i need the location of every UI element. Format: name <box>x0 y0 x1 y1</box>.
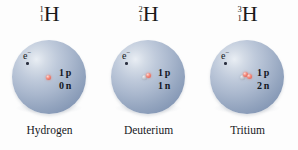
isotope-name-caption: Hydrogen <box>0 125 99 137</box>
element-symbol: H <box>143 3 159 25</box>
proton-particle-icon <box>46 75 51 80</box>
neutron-count-row: 1n <box>158 80 170 93</box>
neutron-unit: n <box>165 80 171 91</box>
proton-unit: p <box>264 67 270 78</box>
electron-charge-sign: − <box>126 49 130 57</box>
proton-count-row: 1p <box>59 67 71 80</box>
isotope-diagram-tritium: 3 1 H e− 1p 2n Tritium <box>198 0 297 150</box>
nuclide-symbol: 2 1 H <box>99 3 198 25</box>
proton-particle-icon <box>146 73 151 78</box>
neutron-unit: n <box>264 80 270 91</box>
element-symbol: H <box>242 3 258 25</box>
particle-counts: 1p 2n <box>257 67 269 92</box>
isotope-name-caption: Deuterium <box>99 125 198 137</box>
neutron-count-row: 2n <box>257 80 269 93</box>
nuclide-symbol: 3 1 H <box>198 3 297 25</box>
electron-dot-icon <box>26 62 29 65</box>
proton-count: 1 <box>257 67 262 78</box>
nucleus-cluster <box>240 71 256 84</box>
electron-charge-sign: − <box>225 49 229 57</box>
electron-label: e− <box>221 51 229 61</box>
neutron-count: 2 <box>257 80 262 91</box>
nucleus-cluster <box>141 71 157 84</box>
electron-dot-icon <box>224 62 227 65</box>
particle-counts: 1p 1n <box>158 67 170 92</box>
neutron-count: 0 <box>59 80 64 91</box>
neutron-count-row: 0n <box>59 80 71 93</box>
atom-sphere-wrap: e− 1p 0n <box>12 40 87 118</box>
isotope-diagram-hydrogen: 1 1 H e− 1p 0n Hydrogen <box>0 0 99 150</box>
proton-unit: p <box>66 67 72 78</box>
neutron-count: 1 <box>158 80 163 91</box>
hydrogen-isotopes-figure: 1 1 H e− 1p 0n Hydrogen 2 1 H <box>0 0 298 150</box>
proton-count-row: 1p <box>158 67 170 80</box>
electron-label: e− <box>23 51 31 61</box>
proton-count: 1 <box>59 67 64 78</box>
electron-dot-icon <box>125 62 128 65</box>
proton-count-row: 1p <box>257 67 269 80</box>
nucleus-cluster <box>42 71 58 84</box>
proton-count: 1 <box>158 67 163 78</box>
proton-unit: p <box>165 67 171 78</box>
nuclide-symbol: 1 1 H <box>0 3 99 25</box>
isotope-name-caption: Tritium <box>198 125 297 137</box>
particle-counts: 1p 0n <box>59 67 71 92</box>
atom-sphere-wrap: e− 1p 1n <box>111 40 186 118</box>
electron-charge-sign: − <box>27 49 31 57</box>
atom-sphere-wrap: e− 1p 2n <box>210 40 285 118</box>
element-symbol: H <box>44 3 60 25</box>
isotope-diagram-deuterium: 2 1 H e− 1p 1n Deuterium <box>99 0 198 150</box>
neutron-unit: n <box>66 80 72 91</box>
neutron-particle-icon-2 <box>247 74 252 79</box>
electron-label: e− <box>122 51 130 61</box>
